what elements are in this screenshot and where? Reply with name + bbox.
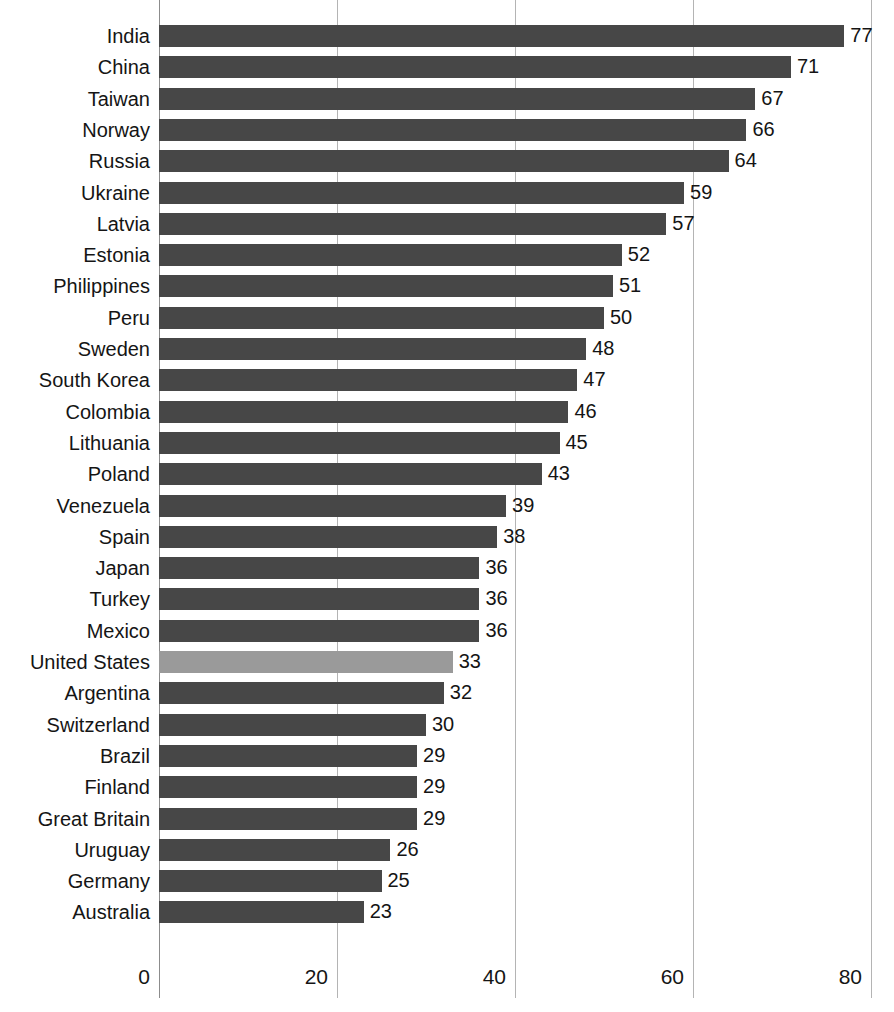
bar-australia (159, 901, 364, 923)
bar-argentina (159, 682, 444, 704)
bar-value-label: 23 (370, 899, 392, 924)
bar-row: 48 (159, 334, 874, 365)
bar-estonia (159, 244, 622, 266)
bar-value-label: 47 (583, 367, 605, 392)
category-label-taiwan: Taiwan (0, 84, 150, 115)
bar-row: 29 (159, 772, 874, 803)
bar-row: 32 (159, 678, 874, 709)
bar-value-label: 51 (619, 273, 641, 298)
bar-chart: IndiaChinaTaiwanNorwayRussiaUkraineLatvi… (0, 0, 894, 1012)
bar-value-label: 30 (432, 712, 454, 737)
category-axis-labels: IndiaChinaTaiwanNorwayRussiaUkraineLatvi… (0, 0, 150, 952)
bar-russia (159, 150, 729, 172)
bar-row: 59 (159, 178, 874, 209)
bar-row: 30 (159, 710, 874, 741)
category-label-argentina: Argentina (0, 678, 150, 709)
bar-row: 50 (159, 303, 874, 334)
category-label-sweden: Sweden (0, 334, 150, 365)
bar-row: 38 (159, 522, 874, 553)
bar-great-britain (159, 808, 417, 830)
bar-taiwan (159, 88, 755, 110)
bar-row: 39 (159, 491, 874, 522)
bar-value-label: 29 (423, 806, 445, 831)
category-label-turkey: Turkey (0, 584, 150, 615)
bar-value-label: 33 (459, 649, 481, 674)
bar-value-label: 36 (485, 618, 507, 643)
category-label-brazil: Brazil (0, 741, 150, 772)
bar-value-label: 64 (735, 148, 757, 173)
bar-colombia (159, 401, 568, 423)
x-tick-stub-40 (515, 952, 516, 998)
bar-row: 46 (159, 397, 874, 428)
bar-value-label: 59 (690, 180, 712, 205)
bar-row: 64 (159, 146, 874, 177)
bar-venezuela (159, 495, 506, 517)
bar-row: 71 (159, 52, 874, 83)
bar-value-label: 32 (450, 680, 472, 705)
bar-spain (159, 526, 497, 548)
x-tick-label-20: 20 (305, 964, 337, 990)
category-label-india: India (0, 21, 150, 52)
category-label-peru: Peru (0, 303, 150, 334)
bar-mexico (159, 620, 479, 642)
bar-row: 36 (159, 553, 874, 584)
bar-value-label: 50 (610, 305, 632, 330)
category-label-latvia: Latvia (0, 209, 150, 240)
bar-row: 52 (159, 240, 874, 271)
bar-row: 36 (159, 616, 874, 647)
bar-row: 51 (159, 271, 874, 302)
bar-value-label: 43 (548, 461, 570, 486)
bar-poland (159, 463, 542, 485)
bar-value-label: 36 (485, 586, 507, 611)
category-label-colombia: Colombia (0, 397, 150, 428)
bar-value-label: 26 (396, 837, 418, 862)
bar-row: 25 (159, 866, 874, 897)
category-label-philippines: Philippines (0, 271, 150, 302)
bar-uruguay (159, 839, 390, 861)
bar-rows: 7771676664595752515048474645433938363636… (159, 0, 874, 952)
category-label-finland: Finland (0, 772, 150, 803)
bar-row: 33 (159, 647, 874, 678)
bar-ukraine (159, 182, 684, 204)
bar-value-label: 57 (672, 211, 694, 236)
bar-switzerland (159, 714, 426, 736)
category-label-japan: Japan (0, 553, 150, 584)
category-label-venezuela: Venezuela (0, 491, 150, 522)
bar-value-label: 39 (512, 493, 534, 518)
x-tick-stub-80 (871, 952, 872, 998)
bar-sweden (159, 338, 586, 360)
bar-row: 29 (159, 804, 874, 835)
category-label-switzerland: Switzerland (0, 710, 150, 741)
x-tick-stub-20 (337, 952, 338, 998)
bar-peru (159, 307, 604, 329)
category-label-ukraine: Ukraine (0, 178, 150, 209)
bar-value-label: 52 (628, 242, 650, 267)
category-label-poland: Poland (0, 459, 150, 490)
bar-lithuania (159, 432, 560, 454)
plot-area: 7771676664595752515048474645433938363636… (159, 0, 874, 952)
category-label-lithuania: Lithuania (0, 428, 150, 459)
bar-japan (159, 557, 479, 579)
bar-row: 43 (159, 459, 874, 490)
bar-turkey (159, 588, 479, 610)
bar-india (159, 25, 844, 47)
category-label-south-korea: South Korea (0, 365, 150, 396)
category-label-germany: Germany (0, 866, 150, 897)
bar-norway (159, 119, 746, 141)
bar-row: 29 (159, 741, 874, 772)
category-label-china: China (0, 52, 150, 83)
bar-value-label: 29 (423, 743, 445, 768)
bar-row: 47 (159, 365, 874, 396)
category-label-united-states: United States (0, 647, 150, 678)
x-tick-stub-60 (693, 952, 694, 998)
bar-row: 23 (159, 897, 874, 928)
category-label-australia: Australia (0, 897, 150, 928)
bar-value-label: 48 (592, 336, 614, 361)
bar-philippines (159, 275, 613, 297)
x-tick-label-40: 40 (483, 964, 515, 990)
bar-value-label: 67 (761, 86, 783, 111)
bar-value-label: 77 (850, 23, 872, 48)
category-label-mexico: Mexico (0, 616, 150, 647)
bar-finland (159, 776, 417, 798)
bar-row: 36 (159, 584, 874, 615)
